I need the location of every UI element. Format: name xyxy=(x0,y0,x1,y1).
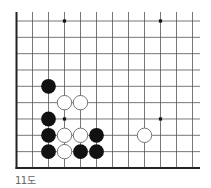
white-stone-icon xyxy=(73,128,87,142)
star-point-icon xyxy=(63,117,66,120)
black-stone-icon xyxy=(89,144,104,159)
black-stone-icon xyxy=(41,79,56,94)
black-stone-icon xyxy=(41,144,56,159)
white-stone-icon xyxy=(57,128,71,142)
white-stone-icon xyxy=(73,95,87,109)
star-point-icon xyxy=(63,19,66,22)
black-stone-icon xyxy=(41,112,56,127)
star-point-icon xyxy=(159,117,162,120)
white-stone-icon xyxy=(137,128,151,142)
black-stone-icon xyxy=(73,144,88,159)
white-stone-icon xyxy=(57,144,71,158)
black-stone-icon xyxy=(89,128,104,143)
diagram-caption: 11도 xyxy=(15,175,35,187)
black-stone-icon xyxy=(41,128,56,143)
star-point-icon xyxy=(159,19,162,22)
white-stone-icon xyxy=(57,95,71,109)
go-board xyxy=(0,0,211,172)
